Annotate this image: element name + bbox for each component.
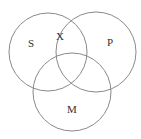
label-x-mark: X	[56, 30, 64, 42]
circle-p	[56, 12, 136, 92]
label-s: S	[28, 37, 34, 49]
label-m: M	[67, 103, 77, 115]
circle-s	[9, 13, 87, 91]
label-p: P	[107, 36, 113, 48]
venn-diagram: S X P M	[0, 0, 141, 139]
